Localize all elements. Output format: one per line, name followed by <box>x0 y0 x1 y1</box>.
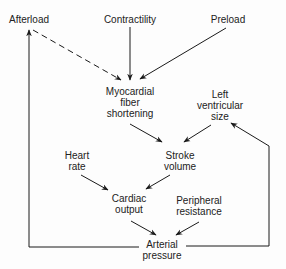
node-label: Myocardial <box>106 86 154 97</box>
edge-heart-rate-to-cardiac-output <box>81 175 108 190</box>
node-label: Arterial <box>143 239 182 250</box>
node-label: Afterload <box>9 14 49 25</box>
edge-cardiac-output-to-arterial-pressure <box>131 221 156 235</box>
node-label: Stroke <box>164 150 196 161</box>
edge-peripheral-resistance-to-arterial-pressure <box>176 222 199 235</box>
node-label: volume <box>164 161 196 172</box>
node-stroke-volume: Stroke volume <box>162 150 198 172</box>
edge-preload-to-myocardial <box>140 28 226 79</box>
node-label: Cardiac <box>112 193 146 204</box>
node-peripheral-resistance: Peripheral resistance <box>174 195 224 217</box>
node-label: Preload <box>211 14 245 25</box>
node-left-ventricular-size: Left ventricular size <box>195 89 245 122</box>
node-label: Heart <box>65 150 89 161</box>
node-preload: Preload <box>209 14 247 25</box>
node-label: size <box>197 111 243 122</box>
node-cardiac-output: Cardiac output <box>110 193 148 215</box>
node-label: fiber <box>106 97 154 108</box>
node-label: Peripheral <box>176 195 222 206</box>
node-label: ventricular <box>197 100 243 111</box>
node-contractility: Contractility <box>102 14 158 25</box>
cardiac-output-diagram: Afterload Contractility Preload Myocardi… <box>0 0 286 269</box>
node-label: Contractility <box>104 14 156 25</box>
edge-lvsize-to-stroke-volume <box>184 125 211 142</box>
edge-myocardial-to-stroke-volume <box>130 124 162 142</box>
node-label: pressure <box>143 250 182 261</box>
node-heart-rate: Heart rate <box>63 150 91 172</box>
node-label: output <box>112 204 146 215</box>
edge-afterload-to-myocardial <box>33 30 121 80</box>
edge-stroke-volume-to-cardiac-output <box>146 175 170 189</box>
node-label: shortening <box>106 108 154 119</box>
node-afterload: Afterload <box>7 14 51 25</box>
edges-layer <box>0 0 286 269</box>
node-label: resistance <box>176 206 222 217</box>
node-label: Left <box>197 89 243 100</box>
node-label: rate <box>65 161 89 172</box>
edge-arterial-pressure-to-lvsize <box>186 123 269 246</box>
node-arterial-pressure: Arterial pressure <box>141 239 184 261</box>
node-myocardial-fiber-shortening: Myocardial fiber shortening <box>104 86 156 119</box>
